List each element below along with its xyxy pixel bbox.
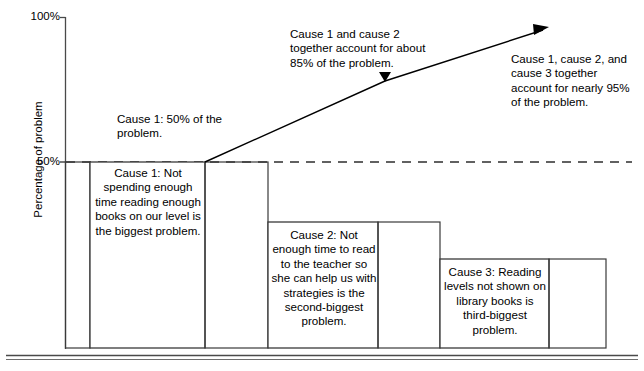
cumulative-85-arrowhead	[379, 72, 391, 82]
callout-cause-1-share: Cause 1: 50% of the problem.	[117, 112, 227, 141]
bar-label-cause-3: Cause 3: Reading levels not shown on lib…	[442, 265, 548, 337]
bar-gutter-column	[66, 162, 91, 348]
y-tick-label-100: 100%	[8, 10, 60, 22]
pareto-chart: 100% 50% Percentage of problem Cause 1: …	[0, 0, 644, 371]
y-axis-title: Percentage of problem	[32, 75, 45, 245]
bar-label-cause-1: Cause 1: Not spending enough time readin…	[92, 166, 204, 238]
bar-trailing-column	[549, 259, 606, 348]
bar-spacer-column-1	[205, 162, 268, 348]
callout-cumulative-85: Cause 1 and cause 2 together account for…	[290, 27, 430, 70]
cumulative-95-arrowhead	[533, 24, 549, 35]
callout-cumulative-95: Cause 1, cause 2, and cause 3 together a…	[511, 52, 639, 110]
bar-label-cause-2: Cause 2: Not enough time to read to the …	[270, 228, 378, 329]
bar-spacer-column-2	[378, 222, 440, 348]
